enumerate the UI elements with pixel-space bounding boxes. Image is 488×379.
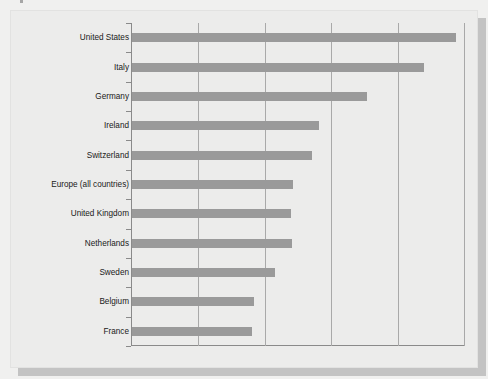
y-axis-tick <box>126 229 131 230</box>
plot-right-border <box>464 23 465 346</box>
category-label-united-kingdom: United Kingdom <box>13 209 129 218</box>
category-label-france: France <box>13 327 129 336</box>
x-axis-line <box>131 345 465 346</box>
bar-ireland[interactable] <box>132 121 319 130</box>
y-axis-tick <box>126 111 131 112</box>
bar-switzerland[interactable] <box>132 151 312 160</box>
chart-canvas: United StatesItalyGermanyIrelandSwitzerl… <box>0 0 488 379</box>
category-label-netherlands: Netherlands <box>13 239 129 248</box>
bar-belgium[interactable] <box>132 297 254 306</box>
y-axis-tick <box>126 82 131 83</box>
y-axis-tick <box>126 199 131 200</box>
y-axis-tick <box>126 170 131 171</box>
y-axis-tick <box>126 317 131 318</box>
bar-germany[interactable] <box>132 92 367 101</box>
category-label-ireland: Ireland <box>13 121 129 130</box>
category-label-germany: Germany <box>13 92 129 101</box>
chart-panel: United StatesItalyGermanyIrelandSwitzerl… <box>10 10 478 368</box>
bar-sweden[interactable] <box>132 268 275 277</box>
plot-area <box>131 23 465 346</box>
bar-united-kingdom[interactable] <box>132 209 291 218</box>
y-axis-tick <box>126 140 131 141</box>
y-axis-tick <box>126 287 131 288</box>
category-label-united-states: United States <box>13 33 129 42</box>
bar-france[interactable] <box>132 327 252 336</box>
category-label-switzerland: Switzerland <box>13 151 129 160</box>
category-label-sweden: Sweden <box>13 268 129 277</box>
bar-netherlands[interactable] <box>132 239 292 248</box>
y-axis-tick <box>126 52 131 53</box>
category-label-italy: Italy <box>13 63 129 72</box>
category-label-europe-all-countries: Europe (all countries) <box>13 180 129 189</box>
bar-italy[interactable] <box>132 63 424 72</box>
y-axis-tick <box>126 23 131 24</box>
edge-artifact-mark <box>20 0 23 3</box>
y-axis-tick <box>126 258 131 259</box>
category-label-belgium: Belgium <box>13 297 129 306</box>
y-axis-tick <box>126 346 131 347</box>
bar-united-states[interactable] <box>132 33 456 42</box>
bar-europe-all-countries[interactable] <box>132 180 293 189</box>
category-axis-labels: United StatesItalyGermanyIrelandSwitzerl… <box>11 23 129 346</box>
